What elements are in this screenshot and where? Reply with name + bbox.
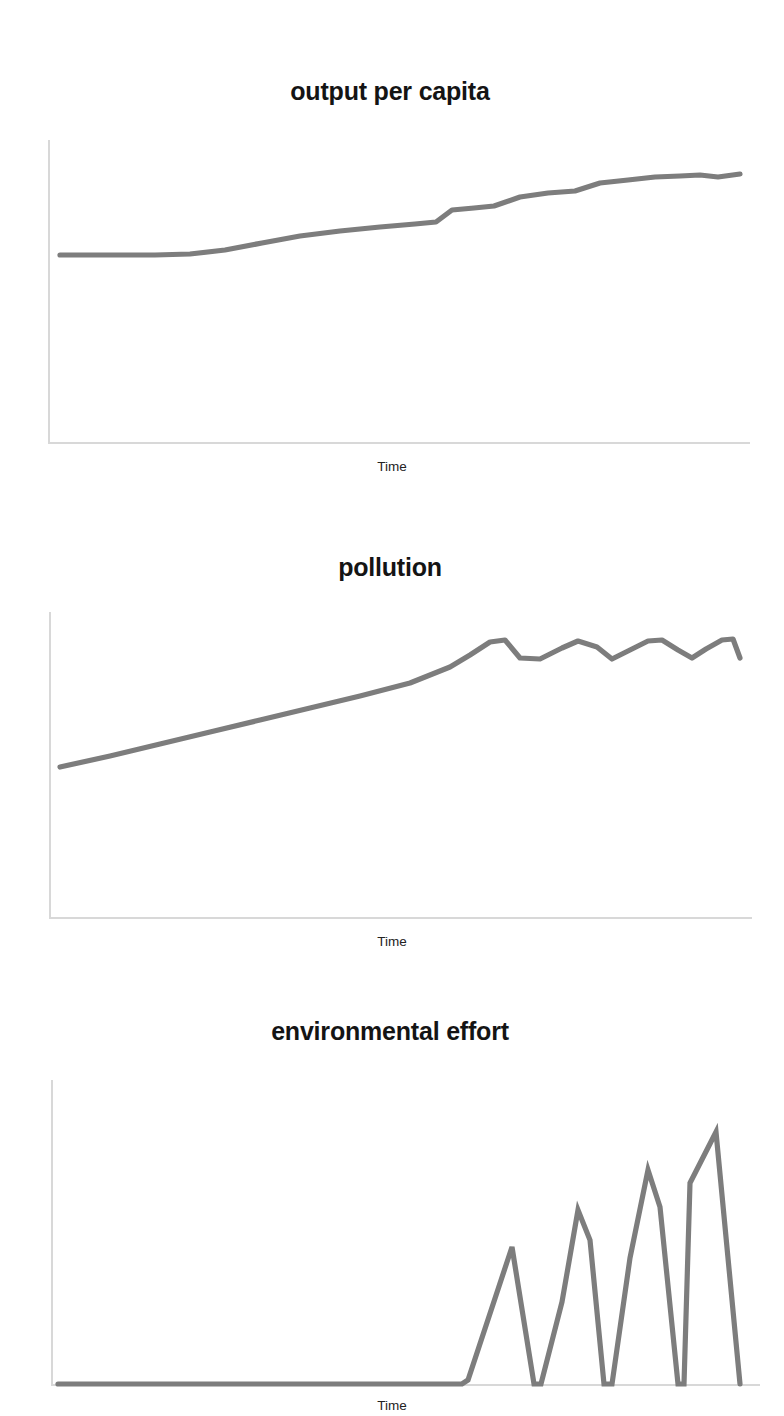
axis-lines	[52, 1080, 760, 1385]
x-axis-label-output-per-capita: Time	[0, 459, 784, 474]
figure-canvas: output per capita Time pollution	[0, 0, 784, 1416]
series-line-output-per-capita	[60, 174, 740, 255]
plot-area-output-per-capita	[0, 0, 784, 500]
x-axis-label-environmental-effort: Time	[0, 1398, 784, 1413]
axis-lines	[49, 140, 750, 443]
axis-lines	[50, 612, 752, 918]
series-line-pollution	[60, 639, 740, 767]
chart-environmental-effort: environmental effort Time	[0, 975, 784, 1416]
chart-pollution: pollution Time	[0, 500, 784, 975]
chart-output-per-capita: output per capita Time	[0, 0, 784, 500]
series-line-environmental-effort	[58, 1132, 740, 1384]
plot-area-pollution-lines	[0, 500, 784, 975]
plot-area-environmental-effort	[0, 975, 784, 1416]
x-axis-label-pollution: Time	[0, 934, 784, 949]
